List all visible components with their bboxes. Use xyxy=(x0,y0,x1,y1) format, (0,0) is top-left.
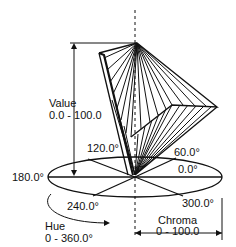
hue-180-label: 180.0° xyxy=(12,171,44,183)
hue-axis-range: 0 - 360.0° xyxy=(45,232,93,244)
hue-60-label: 60.0° xyxy=(174,146,200,158)
value-axis-name: Value xyxy=(49,97,76,109)
hue-300-label: 300.0° xyxy=(182,197,214,209)
value-axis-range: 0.0 - 100.0 xyxy=(49,109,102,121)
hvc-color-solid-diagram: Value 0.0 - 100.0 120.0° 60.0° 0.0° 180.… xyxy=(0,0,236,247)
hue-120-label: 120.0° xyxy=(87,142,119,154)
chroma-axis-range: 0 - 100.0 xyxy=(156,225,199,237)
diagram-graphics xyxy=(0,0,236,247)
hue-axis-name: Hue xyxy=(45,220,65,232)
hue-0-label: 0.0° xyxy=(178,163,198,175)
hue-240-label: 240.0° xyxy=(67,200,99,212)
